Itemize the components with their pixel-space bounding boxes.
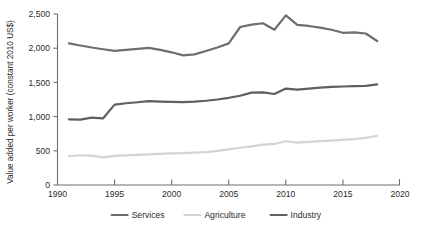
line-chart: Value added per worker (constant 2010 US… — [0, 0, 422, 230]
legend-label-services: Services — [132, 210, 165, 220]
chart-container: Value added per worker (constant 2010 US… — [0, 0, 422, 230]
y-tick-label: 2,000 — [28, 43, 50, 53]
x-tick-label: 2015 — [333, 189, 352, 199]
legend-label-agriculture: Agriculture — [204, 210, 245, 220]
legend-label-industry: Industry — [291, 210, 322, 220]
y-tick-label: 500 — [36, 146, 51, 156]
series-line-services — [69, 15, 377, 55]
chart-legend: ServicesAgricultureIndustry — [112, 210, 322, 220]
y-tick-label: 1,000 — [28, 112, 50, 122]
y-axis-title-text: Value added per worker (constant 2010 US… — [6, 20, 15, 184]
x-tick-label: 2000 — [162, 189, 181, 199]
x-tick-label: 1990 — [48, 189, 67, 199]
series-line-agriculture — [69, 136, 377, 158]
y-tick-label: 1,500 — [28, 78, 50, 88]
x-axis-ticks: 1990199520002005201020152020 — [48, 180, 410, 199]
series-lines — [69, 15, 377, 157]
y-tick-label: 2,500 — [28, 9, 50, 19]
y-axis-ticks: 05001,0001,5002,0002,500 — [28, 9, 57, 190]
y-axis-title: Value added per worker (constant 2010 US… — [6, 20, 15, 184]
x-tick-label: 2010 — [276, 189, 295, 199]
x-tick-label: 2005 — [219, 189, 238, 199]
x-tick-label: 1995 — [105, 189, 124, 199]
series-line-industry — [69, 84, 377, 119]
x-tick-label: 2020 — [390, 189, 409, 199]
